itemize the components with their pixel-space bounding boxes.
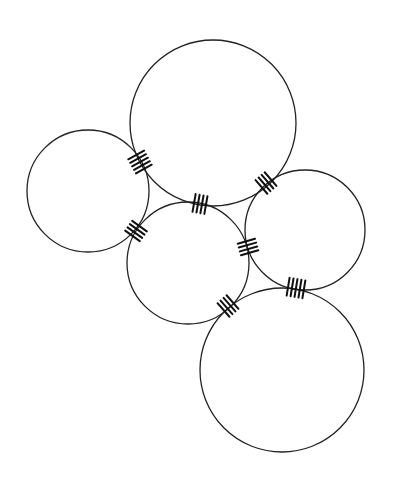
tick-mark	[295, 279, 298, 297]
circles-layer	[27, 40, 365, 452]
contact-ticks-middle-bottom-large	[218, 295, 239, 316]
circle-diagram	[0, 0, 403, 486]
tick-mark	[302, 280, 305, 298]
contact-ticks-top-large-middle	[193, 194, 208, 214]
contact-ticks-top-large-right	[256, 172, 277, 193]
tick-mark	[128, 151, 144, 160]
tick-mark	[298, 280, 301, 298]
contact-ticks-top-large-left	[128, 151, 151, 174]
tick-mark	[291, 278, 294, 296]
